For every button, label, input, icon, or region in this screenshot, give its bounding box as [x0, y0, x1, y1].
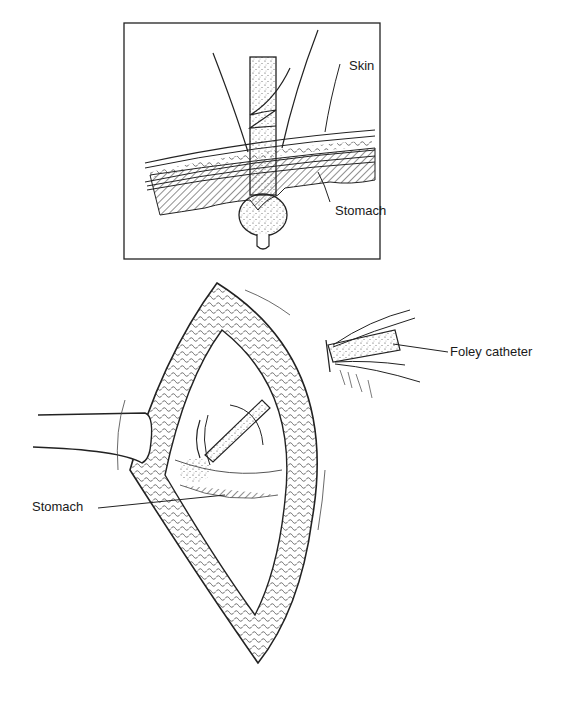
foley-catheter-detail: [326, 310, 448, 398]
incision-panel: [33, 283, 325, 663]
skin-label: Skin: [349, 58, 374, 73]
foley-catheter-label: Foley catheter: [450, 344, 532, 359]
inset-panel: [124, 23, 380, 259]
stomach-label: Stomach: [32, 499, 83, 514]
inset-stomach-label: Stomach: [335, 203, 386, 218]
